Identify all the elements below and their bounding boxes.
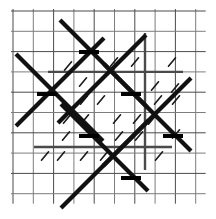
lattice-figure: [0, 0, 216, 219]
figure-container: [0, 0, 216, 219]
